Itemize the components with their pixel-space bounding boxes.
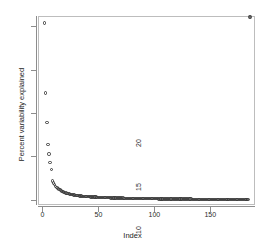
- plot-area: [38, 16, 255, 205]
- y-axis-line: [36, 16, 37, 205]
- data-point: [246, 198, 249, 201]
- y-tick: [31, 26, 36, 27]
- x-tick-label: 50: [94, 211, 102, 218]
- x-axis-title: Index: [0, 231, 265, 240]
- data-point: [50, 168, 53, 171]
- x-axis-line: [38, 206, 255, 207]
- data-point: [43, 21, 46, 24]
- y-tick: [31, 70, 36, 71]
- data-point: [44, 91, 47, 94]
- y-tick: [31, 200, 36, 201]
- y-axis-title: Percent variability explained: [17, 50, 26, 180]
- y-tick-label: 20: [135, 0, 142, 147]
- scatter-series: [39, 17, 254, 204]
- x-tick-label: 100: [148, 211, 160, 218]
- x-tick-label: 0: [41, 211, 45, 218]
- y-tick: [31, 156, 36, 157]
- scree-plot-figure: 05101520 050100150 Percent variability e…: [0, 0, 265, 249]
- y-tick: [31, 113, 36, 114]
- data-point: [249, 15, 252, 18]
- data-point: [45, 121, 48, 124]
- data-point: [48, 161, 51, 164]
- data-point: [46, 143, 49, 146]
- data-point: [47, 152, 50, 155]
- x-tick-label: 150: [204, 211, 216, 218]
